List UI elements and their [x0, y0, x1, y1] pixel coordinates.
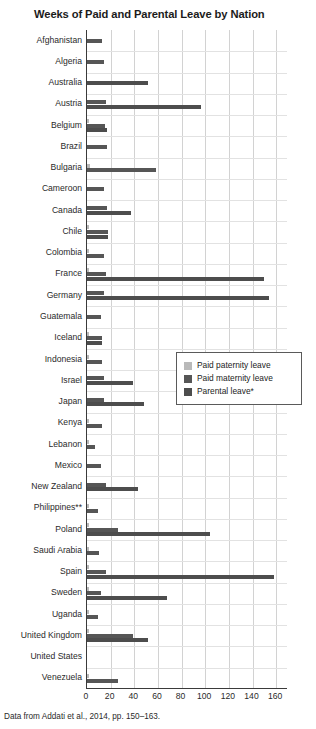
bar-row: [87, 413, 287, 434]
bar-row: [87, 285, 287, 306]
bar-row: [87, 434, 287, 455]
bar-parental: [87, 575, 274, 579]
bar-maternity: [87, 336, 102, 340]
bar-parental: [87, 277, 264, 281]
bar-parental: [87, 532, 210, 536]
bar-paternity: [87, 440, 89, 444]
y-axis-label: Poland: [0, 525, 82, 534]
bar-row: [87, 51, 287, 72]
legend-label: Parental leave*: [197, 387, 254, 395]
y-axis-label: Chile: [0, 227, 82, 236]
bar-parental: [87, 105, 201, 109]
bar-paternity: [87, 587, 89, 591]
legend-label: Paid paternity leave: [197, 361, 271, 369]
y-axis-label: Guatemala: [0, 312, 82, 321]
bar-paternity: [87, 547, 89, 551]
bar-parental: [87, 638, 148, 642]
bar-paternity: [87, 629, 89, 633]
bar-row: [87, 136, 287, 157]
bar-parental: [87, 128, 107, 132]
bar-row: [87, 455, 287, 476]
bar-maternity: [87, 360, 102, 364]
bar-maternity: [87, 445, 95, 449]
bar-row: [87, 94, 287, 115]
bar-paternity: [87, 504, 89, 508]
bar-row: [87, 306, 287, 327]
y-axis-label: Sweden: [0, 588, 82, 597]
y-axis-label: United States: [0, 652, 82, 661]
y-axis-label: Cameroon: [0, 184, 82, 193]
legend-swatch-icon: [184, 388, 192, 396]
y-axis-label: Mexico: [0, 461, 82, 470]
bar-maternity: [87, 483, 106, 487]
bar-maternity: [87, 551, 99, 555]
bar-maternity: [87, 206, 107, 210]
bar-maternity: [87, 39, 102, 43]
y-axis-label: Austria: [0, 99, 82, 108]
bar-row: [87, 73, 287, 94]
y-axis-label: Lebanon: [0, 440, 82, 449]
y-axis-label: Venezuela: [0, 673, 82, 682]
bar-row: [87, 625, 287, 646]
y-axis-label: Kenya: [0, 418, 82, 427]
legend-swatch-icon: [184, 362, 192, 370]
source-note: Data from Addati et al., 2014, pp. 150–1…: [4, 712, 160, 721]
bar-row: [87, 264, 287, 285]
bar-maternity: [87, 291, 104, 295]
bar-row: [87, 668, 287, 689]
bar-maternity: [87, 60, 104, 64]
bar-row: [87, 221, 287, 242]
bar-row: [87, 540, 287, 561]
y-axis-label: Iceland: [0, 333, 82, 342]
bar-parental: [87, 296, 269, 300]
bar-parental: [87, 81, 148, 85]
bar-parental: [87, 487, 138, 491]
y-axis-label: United Kingdom: [0, 631, 82, 640]
y-axis-label: Germany: [0, 291, 82, 300]
bar-row: [87, 200, 287, 221]
bar-maternity: [87, 570, 106, 574]
bar-paternity: [87, 164, 90, 168]
bar-paternity: [87, 565, 89, 569]
y-axis-label: Spain: [0, 567, 82, 576]
y-axis-label: Japan: [0, 397, 82, 406]
y-axis-label: Algeria: [0, 57, 82, 66]
bar-paternity: [87, 225, 89, 229]
bar-row: [87, 498, 287, 519]
bar-maternity: [87, 187, 104, 191]
legend-swatch-icon: [184, 375, 192, 383]
y-axis-label: Australia: [0, 78, 82, 87]
bar-maternity: [87, 615, 98, 619]
bar-paternity: [87, 249, 89, 253]
bar-maternity: [87, 254, 104, 258]
bar-row: [87, 519, 287, 540]
bar-maternity: [87, 230, 108, 234]
y-axis-label: Indonesia: [0, 355, 82, 364]
y-axis-label: Israel: [0, 376, 82, 385]
y-axis-label: Belgium: [0, 121, 82, 130]
y-axis-label: Bulgaria: [0, 163, 82, 172]
bar-parental: [87, 596, 167, 600]
bar-row: [87, 158, 287, 179]
bar-maternity: [87, 634, 133, 638]
legend-item: Paid maternity leave: [184, 372, 294, 385]
y-axis-label: New Zealand: [0, 482, 82, 491]
bar-parental: [87, 235, 108, 239]
bar-row: [87, 115, 287, 136]
y-axis-label: Philippines**: [0, 503, 82, 512]
bar-maternity: [87, 315, 101, 319]
bar-paternity: [87, 332, 89, 336]
bar-maternity: [87, 100, 106, 104]
x-axis-tick-label: 160: [260, 692, 290, 701]
bar-maternity: [87, 424, 102, 428]
legend-item: Paid paternity leave: [184, 359, 294, 372]
bar-maternity: [87, 591, 101, 595]
bar-parental: [87, 341, 102, 345]
bar-maternity: [87, 398, 104, 402]
bar-paternity: [87, 119, 89, 123]
bar-parental: [87, 402, 144, 406]
chart-figure: Weeks of Paid and Parental Leave by Nati…: [0, 0, 316, 729]
bar-maternity: [87, 528, 118, 532]
bar-maternity: [87, 509, 98, 513]
bar-parental: [87, 211, 131, 215]
